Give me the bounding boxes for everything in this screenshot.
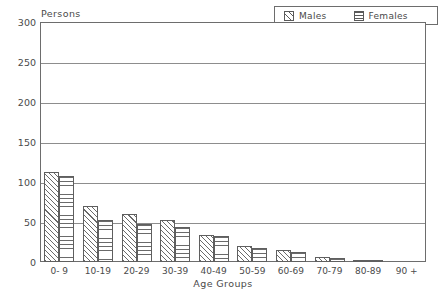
y-axis-tick-label: 250 [3, 57, 36, 68]
y-axis-title: Persons [41, 8, 81, 19]
bar-females [368, 260, 383, 262]
legend-entry-males: Males [284, 11, 327, 21]
y-axis-tick-label: 200 [3, 97, 36, 108]
males-swatch-icon [284, 11, 294, 21]
x-axis-tick-label: 70-79 [316, 266, 342, 276]
x-axis-tick-label: 10-19 [85, 266, 111, 276]
bar-group [199, 235, 229, 262]
females-swatch-icon [354, 11, 364, 21]
bar-females [291, 252, 306, 262]
x-axis-tick-label: 50-59 [239, 266, 265, 276]
bar-males [160, 220, 175, 262]
bar-group [44, 172, 74, 262]
x-axis-title: Age Groups [0, 278, 446, 289]
bar-males [122, 214, 137, 262]
bar-group [237, 246, 267, 262]
bar-females [137, 224, 152, 262]
x-axis-tick-label: 30-39 [162, 266, 188, 276]
legend-label-males: Males [299, 11, 327, 21]
bar-group [315, 257, 345, 262]
x-axis-tick-label: 40-49 [201, 266, 227, 276]
bar-males [199, 235, 214, 262]
bar-males [353, 260, 368, 262]
bar-group [83, 206, 113, 262]
bar-group [353, 260, 383, 262]
bar-females [214, 236, 229, 262]
y-axis-tick-label: 300 [3, 17, 36, 28]
x-axis-tick-label: 80-89 [355, 266, 381, 276]
x-axis-tick-label: 90 + [396, 266, 418, 276]
bar-females [252, 248, 267, 262]
y-axis-ticks: 050100150200250300 [0, 0, 36, 304]
bar-females [175, 227, 190, 262]
bar-males [276, 250, 291, 262]
bar-males [315, 257, 330, 262]
bar-females [330, 258, 345, 262]
x-axis-tick-label: 60-69 [278, 266, 304, 276]
bar-males [237, 246, 252, 262]
legend-entry-females: Females [354, 11, 408, 21]
x-axis-tick-label: 0- 9 [51, 266, 69, 276]
y-axis-tick-label: 100 [3, 177, 36, 188]
x-axis-tick-label: 20-29 [123, 266, 149, 276]
bar-males [44, 172, 59, 262]
y-axis-tick-label: 0 [3, 257, 36, 268]
bar-males [83, 206, 98, 262]
bar-chart: Males Females Persons 050100150200250300… [0, 0, 446, 304]
bar-females [59, 176, 74, 262]
legend-label-females: Females [369, 11, 408, 21]
bar-group [160, 220, 190, 262]
bars-layer [40, 22, 426, 262]
bar-group [276, 250, 306, 262]
y-axis-tick-label: 50 [3, 217, 36, 228]
bar-group [122, 214, 152, 262]
bar-females [98, 220, 113, 262]
y-axis-tick-label: 150 [3, 137, 36, 148]
